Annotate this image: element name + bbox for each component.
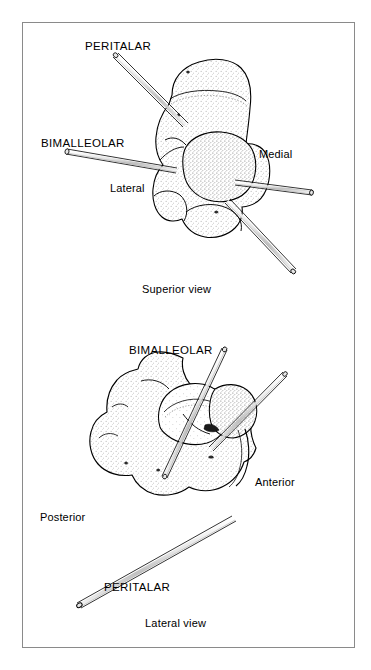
peritalar-wire-lateral [76,516,236,608]
figure-root: PERITALAR BIMALLEOLAR Lateral Medial Sup… [0,0,371,670]
lateral-view-artwork [76,346,288,608]
talus-head-superior [183,132,256,202]
anatomical-line-art [0,0,371,670]
oblique-wire-superior [225,199,297,275]
superior-view-artwork [65,52,314,275]
